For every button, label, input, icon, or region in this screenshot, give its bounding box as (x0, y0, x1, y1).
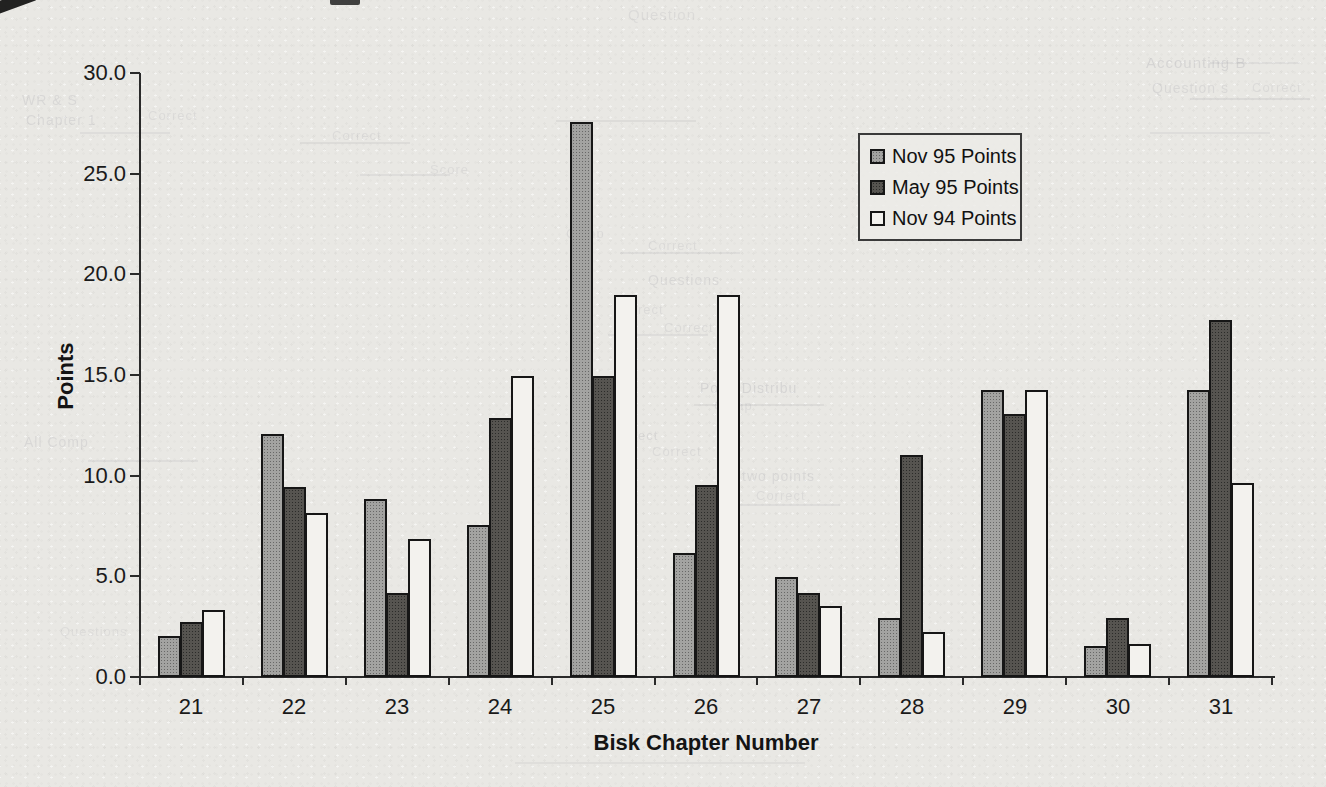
scanned-page: QuestionAccounting BQuestion sCorrectWR … (0, 0, 1326, 787)
bleed-text-17: Correct (652, 444, 702, 459)
bleed-text-5: Chapter 1 (26, 112, 96, 128)
x-tick-8 (962, 677, 964, 685)
bleed-rule-2 (1190, 98, 1310, 100)
bleed-text-10: Correct (648, 238, 698, 253)
bleed-text-14: Point Distribu (700, 380, 797, 396)
x-tick-5 (654, 677, 656, 685)
bar-may95-ch25 (592, 376, 615, 677)
bleed-rule-6 (88, 460, 198, 462)
y-tick-25.0 (130, 173, 140, 175)
bleed-text-2: Question s (1152, 80, 1229, 96)
legend-swatch-nov94-icon (870, 211, 885, 226)
bleed-text-19: Correct (756, 488, 806, 503)
legend-swatch-may95-icon (870, 180, 885, 195)
x-tick-label-28: 28 (880, 696, 944, 718)
y-tick-label-30.0: 30.0 (52, 62, 126, 84)
x-tick-6 (756, 677, 758, 685)
x-tick-9 (1065, 677, 1067, 685)
bleed-text-20: All Comp (24, 434, 89, 450)
scan-edge-mark (330, 0, 360, 5)
bar-nov95-ch26 (673, 553, 696, 677)
y-tick-30.0 (130, 72, 140, 74)
bar-nov95-ch27 (775, 577, 798, 677)
bar-nov94-ch22 (305, 513, 328, 677)
x-tick-2 (345, 677, 347, 685)
legend-item-nov95: Nov 95 Points (870, 145, 1020, 167)
bleed-text-4: WR & S (22, 92, 78, 108)
x-tick-label-24: 24 (468, 696, 532, 718)
x-tick-label-25: 25 (571, 696, 635, 718)
bar-may95-ch30 (1106, 618, 1129, 677)
bar-may95-ch21 (180, 622, 203, 677)
bar-nov94-ch21 (202, 610, 225, 677)
y-tick-20.0 (130, 273, 140, 275)
x-tick-0 (139, 677, 141, 685)
legend: Nov 95 PointsMay 95 PointsNov 94 Points (858, 133, 1022, 241)
bleed-text-7: Correct (332, 128, 382, 143)
bleed-text-21: Questions (60, 624, 128, 639)
bar-nov95-ch23 (364, 499, 387, 677)
x-tick-label-31: 31 (1189, 696, 1253, 718)
bar-nov94-ch28 (922, 632, 945, 677)
x-tick-label-26: 26 (674, 696, 738, 718)
bar-may95-ch22 (283, 487, 306, 677)
x-tick-7 (859, 677, 861, 685)
legend-item-nov94: Nov 94 Points (870, 207, 1020, 229)
bleed-rule-5 (694, 404, 824, 406)
x-tick-label-30: 30 (1086, 696, 1150, 718)
x-tick-3 (448, 677, 450, 685)
bar-may95-ch31 (1209, 320, 1232, 677)
bar-nov94-ch31 (1231, 483, 1254, 677)
bar-nov95-ch21 (158, 636, 181, 677)
bar-nov95-ch30 (1084, 646, 1107, 677)
bleed-rule-10 (740, 504, 840, 506)
bleed-rule-0 (300, 142, 410, 144)
x-tick-11 (1271, 677, 1273, 685)
bleed-rule-12 (515, 762, 805, 764)
bar-nov95-ch29 (981, 390, 1004, 677)
bar-nov95-ch28 (878, 618, 901, 677)
bleed-rule-3 (1210, 62, 1300, 64)
x-tick-4 (551, 677, 553, 685)
bleed-rule-7 (360, 174, 450, 176)
bar-may95-ch24 (489, 418, 512, 677)
bar-nov94-ch26 (717, 295, 740, 677)
bar-may95-ch29 (1003, 414, 1026, 677)
bar-nov95-ch31 (1187, 390, 1210, 677)
y-tick-label-0.0: 0.0 (52, 666, 126, 688)
y-tick-10.0 (130, 475, 140, 477)
bleed-text-13: Correct (664, 320, 714, 335)
x-tick-label-23: 23 (365, 696, 429, 718)
bar-nov95-ch22 (261, 434, 284, 677)
bar-may95-ch26 (695, 485, 718, 677)
bar-nov94-ch30 (1128, 644, 1151, 677)
y-tick-15.0 (130, 374, 140, 376)
bleed-text-11: Questions (648, 272, 720, 288)
bleed-text-6: Correct (148, 108, 198, 123)
legend-label-may95: May 95 Points (892, 176, 1019, 198)
legend-swatch-nov95-icon (870, 149, 885, 164)
bar-nov95-ch25 (570, 122, 593, 677)
legend-label-nov94: Nov 94 Points (892, 207, 1017, 229)
legend-label-nov95: Nov 95 Points (892, 145, 1017, 167)
bleed-text-3: Correct (1252, 80, 1302, 95)
bar-nov94-ch25 (614, 295, 637, 677)
scan-corner-mark (0, 0, 37, 15)
bar-nov95-ch24 (467, 525, 490, 677)
bar-nov94-ch27 (819, 606, 842, 677)
x-tick-label-27: 27 (777, 696, 841, 718)
bar-nov94-ch29 (1025, 390, 1048, 677)
x-axis-title: Bisk Chapter Number (586, 730, 826, 756)
y-tick-label-15.0: 15.0 (52, 364, 126, 386)
bar-nov94-ch24 (511, 376, 534, 677)
y-tick-label-5.0: 5.0 (52, 565, 126, 587)
x-tick-label-29: 29 (983, 696, 1047, 718)
bleed-rule-11 (1150, 132, 1270, 134)
x-tick-label-21: 21 (159, 696, 223, 718)
y-tick-5.0 (130, 575, 140, 577)
bleed-text-18: two points (742, 468, 815, 484)
bleed-rule-9 (80, 132, 170, 134)
y-tick-label-25.0: 25.0 (52, 163, 126, 185)
bleed-rule-8 (620, 252, 740, 254)
bar-may95-ch23 (386, 593, 409, 677)
